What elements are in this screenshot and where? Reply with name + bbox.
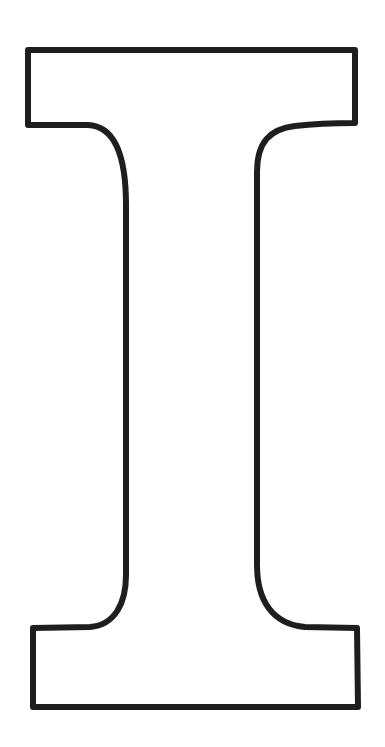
letter-i-outline-icon: [0, 0, 385, 747]
letter-i-outline-path: [28, 50, 358, 707]
